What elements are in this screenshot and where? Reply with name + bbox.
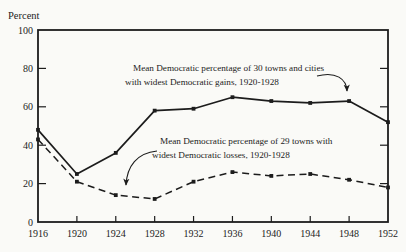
data-point-democratic-gains-towns [153, 109, 157, 113]
x-tick-label: 1920 [67, 228, 87, 239]
annotation-losses-line1: Mean Democratic percentage of 29 towns w… [160, 136, 333, 146]
data-point-democratic-gains-towns [308, 101, 312, 105]
x-tick-label: 1948 [339, 228, 359, 239]
y-tick-label: 40 [23, 140, 33, 151]
data-point-democratic-losses-towns [269, 174, 273, 178]
y-tick-label: 20 [23, 178, 33, 189]
data-point-democratic-losses-towns [192, 180, 196, 184]
data-point-democratic-gains-towns [192, 107, 196, 111]
data-point-democratic-losses-towns [231, 170, 235, 174]
data-point-democratic-gains-towns [347, 99, 351, 103]
x-tick-label: 1936 [222, 228, 242, 239]
data-point-democratic-losses-towns [347, 178, 351, 182]
annotation-gains-line1: Mean Democratic percentage of 30 towns a… [133, 63, 325, 73]
data-point-democratic-losses-towns [75, 180, 79, 184]
x-tick-label: 1928 [145, 228, 165, 239]
data-point-democratic-gains-towns [386, 120, 390, 124]
y-tick-label: 0 [28, 217, 33, 228]
x-tick-label: 1952 [378, 228, 398, 239]
x-tick-label: 1944 [300, 228, 320, 239]
series-line-democratic-losses-towns [38, 139, 388, 199]
annotation-losses-line2: widest Democratic losses, 1920-1928 [152, 150, 290, 160]
data-point-democratic-losses-towns [36, 138, 40, 142]
y-tick-label: 60 [23, 101, 33, 112]
y-tick-label: 100 [18, 25, 33, 36]
data-point-democratic-gains-towns [75, 172, 79, 176]
annotation-gains-arrow [317, 74, 347, 91]
data-point-democratic-losses-towns [114, 193, 118, 197]
data-point-democratic-gains-towns [114, 151, 118, 155]
data-point-democratic-losses-towns [308, 172, 312, 176]
annotation-losses: Mean Democratic percentage of 29 towns w… [126, 136, 333, 185]
annotation-gains-line2: with widest Democratic gains, 1920-1928 [125, 77, 279, 87]
data-point-democratic-gains-towns [269, 99, 273, 103]
figure-page: Percent 02040608010019161920192419281932… [0, 0, 406, 252]
line-chart: Percent 02040608010019161920192419281932… [0, 0, 406, 252]
plot-area: 0204060801001916192019241928193219361940… [18, 25, 398, 240]
data-point-democratic-losses-towns [386, 186, 390, 190]
annotation-gains: Mean Democratic percentage of 30 towns a… [125, 63, 347, 91]
y-tick-label: 80 [23, 63, 33, 74]
plot-border [38, 30, 388, 222]
x-tick-label: 1940 [261, 228, 281, 239]
data-point-democratic-gains-towns [36, 128, 40, 132]
data-point-democratic-gains-towns [231, 95, 235, 99]
x-tick-label: 1932 [184, 228, 204, 239]
y-axis-title: Percent [8, 10, 40, 21]
data-point-democratic-losses-towns [153, 197, 157, 201]
x-tick-label: 1916 [28, 228, 48, 239]
x-tick-label: 1924 [106, 228, 126, 239]
